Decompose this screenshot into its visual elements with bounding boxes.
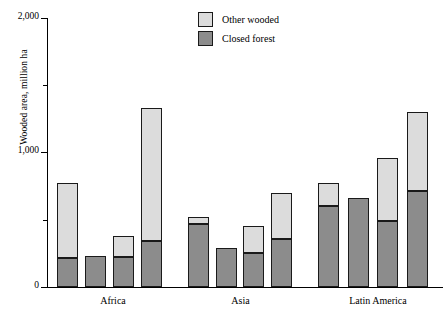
bar-segment-closed-forest: [377, 221, 398, 287]
bar-segment-closed-forest: [85, 256, 106, 287]
legend-swatch-other-wooded-icon: [198, 12, 213, 27]
legend-label-closed-forest: Closed forest: [222, 33, 275, 44]
x-group-label-latin-america: Latin America: [318, 295, 438, 306]
y-tick-1500: [43, 85, 48, 86]
bar-segment-other-wooded: [271, 193, 292, 239]
x-group-label-africa: Africa: [58, 295, 168, 306]
bar-segment-other-wooded: [188, 217, 209, 224]
bar-segment-closed-forest: [57, 258, 78, 287]
chart-canvas: Wooded area, million ha 2,000 1,000 0 Af…: [0, 0, 445, 318]
bar-segment-other-wooded: [377, 158, 398, 221]
y-tick-label-2000: 2,000: [18, 12, 39, 22]
bar-latin-america-2: [348, 198, 369, 287]
bar-segment-other-wooded: [141, 108, 162, 241]
legend-item-other-wooded: Other wooded: [198, 10, 279, 29]
bar-segment-closed-forest: [243, 253, 264, 287]
y-tick-2000: [41, 18, 48, 19]
bar-africa-3: [113, 236, 134, 287]
x-axis-line: [47, 287, 443, 288]
legend-swatch-closed-forest-icon: [198, 31, 213, 46]
bar-segment-closed-forest: [216, 248, 237, 287]
bar-asia-3: [243, 226, 264, 287]
bar-segment-closed-forest: [407, 191, 428, 286]
bar-segment-closed-forest: [113, 257, 134, 287]
bar-segment-other-wooded: [318, 183, 339, 206]
legend-label-other-wooded: Other wooded: [222, 14, 279, 25]
bar-asia-1: [188, 217, 209, 287]
bar-latin-america-1: [318, 183, 339, 287]
y-tick-label-1000: 1,000: [18, 146, 39, 156]
bar-segment-closed-forest: [271, 239, 292, 287]
bar-segment-closed-forest: [348, 198, 369, 287]
bar-segment-other-wooded: [407, 112, 428, 191]
y-axis-line: [47, 18, 48, 288]
bar-segment-other-wooded: [57, 183, 78, 258]
y-tick-1000: [41, 152, 48, 153]
bar-latin-america-3: [377, 158, 398, 287]
bar-segment-closed-forest: [318, 206, 339, 287]
bar-segment-other-wooded: [113, 236, 134, 257]
bar-segment-closed-forest: [141, 241, 162, 287]
bar-asia-2: [216, 248, 237, 287]
bar-africa-4: [141, 108, 162, 287]
bar-latin-america-4: [407, 112, 428, 287]
bar-segment-other-wooded: [243, 226, 264, 253]
bar-africa-2: [85, 256, 106, 287]
legend-item-closed-forest: Closed forest: [198, 29, 279, 48]
bar-asia-4: [271, 193, 292, 287]
bar-segment-closed-forest: [188, 224, 209, 287]
y-tick-500: [43, 220, 48, 221]
x-group-label-asia: Asia: [188, 295, 293, 306]
y-tick-0: [41, 287, 48, 288]
chart-legend: Other wooded Closed forest: [198, 10, 279, 48]
bar-africa-1: [57, 183, 78, 287]
y-tick-label-0: 0: [34, 281, 39, 291]
